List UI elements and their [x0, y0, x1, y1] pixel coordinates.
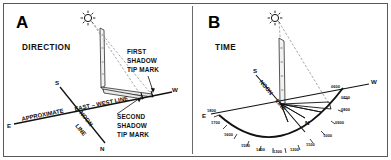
time-label-1300: 1300 — [273, 149, 283, 154]
first-shadow-tip-callout: FIRST SHADOW TIP MARK — [127, 48, 159, 93]
time-label-0900: 0900 — [335, 120, 345, 125]
time-label-1600: 1600 — [224, 132, 234, 137]
time-label-1700: 1700 — [211, 120, 221, 125]
panel-time: B TIME — [193, 0, 391, 160]
gnomon-stick — [279, 38, 285, 105]
figure-root: A DIRECTION — [0, 0, 391, 160]
second-mark-line3: TIP MARK — [117, 131, 149, 138]
compass-south-b: S — [253, 67, 257, 74]
second-mark-line2: SHADOW — [117, 122, 148, 129]
panel-a-subtitle: DIRECTION — [22, 43, 71, 52]
compass-west-a: W — [172, 86, 178, 93]
time-label-1500: 1500 — [241, 143, 251, 148]
noon-label-b: NOON — [258, 79, 274, 96]
compass-south-a: S — [55, 79, 59, 86]
first-mark-line1: FIRST — [127, 48, 146, 55]
sun-ray-lines — [279, 22, 329, 104]
first-mark-line3: TIP MARK — [127, 66, 159, 73]
panel-direction: A DIRECTION — [0, 0, 192, 160]
gnomon-stick — [100, 28, 105, 88]
panel-a-letter: A — [16, 13, 28, 32]
compass-north-a: N — [100, 145, 105, 152]
time-label-1000: 1000 — [323, 133, 333, 138]
panel-b-letter: B — [208, 13, 220, 32]
compass-north-b: N — [305, 119, 310, 126]
time-label-1200: 1200 — [290, 147, 300, 152]
time-label-1100: 1100 — [306, 142, 315, 147]
compass-west-b: W — [371, 78, 377, 85]
time-label-1400: 1400 — [256, 147, 266, 152]
compass-east-b: E — [202, 112, 206, 119]
time-label-0700: 0700 — [341, 95, 351, 100]
panel-b-subtitle: TIME — [215, 43, 236, 52]
second-mark-line1: SECOND — [117, 113, 145, 120]
compass-east-a: E — [7, 122, 11, 129]
sun-icon — [268, 11, 283, 26]
time-label-0600: 0600 — [331, 84, 341, 89]
time-label-0800: 0800 — [341, 107, 351, 112]
first-mark-line2: SHADOW — [127, 57, 158, 64]
time-label-1800: 1800 — [207, 108, 217, 113]
line-label-a: LINE — [74, 123, 87, 137]
time-arc-labels: 1800 1700 1600 1500 1400 1300 1200 1100 … — [207, 84, 351, 154]
